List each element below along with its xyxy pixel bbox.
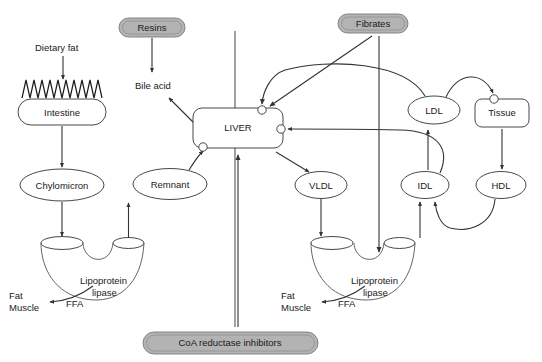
lpl-left-inner-wall bbox=[83, 243, 113, 259]
lpl-right-mouth-out bbox=[384, 238, 415, 249]
node-chylomicron-label: Chylomicron bbox=[36, 180, 89, 191]
node-tissue-label: Tissue bbox=[488, 107, 516, 118]
muscle-left-label: Muscle bbox=[9, 302, 39, 313]
edge-remnant-to-liver bbox=[189, 151, 203, 170]
fat-left-label: Fat bbox=[9, 290, 23, 301]
lpl-left-label-line2: lipase bbox=[92, 287, 117, 298]
drug-fibrates-label: Fibrates bbox=[356, 18, 391, 29]
pathway-diagram: Intestine Chylomicron Lipoprotein lipase… bbox=[0, 0, 542, 362]
edge-ldl-to-tissue bbox=[446, 77, 493, 97]
edge-fibrates-to-liver bbox=[270, 36, 372, 106]
node-ldl-label: LDL bbox=[425, 105, 442, 116]
node-hdl-label: HDL bbox=[491, 180, 510, 191]
drug-coa-reductase-inhibitors[interactable]: CoA reductase inhibitors bbox=[143, 332, 318, 354]
liver-receptor-bottom-left-icon[interactable] bbox=[199, 143, 207, 151]
node-vldl-label: VLDL bbox=[309, 180, 333, 191]
dietary-fat-label: Dietary fat bbox=[35, 42, 79, 53]
node-liver-label: LIVER bbox=[224, 122, 252, 133]
fat-right-label: Fat bbox=[281, 290, 295, 301]
bile-acid-label: Bile acid bbox=[135, 80, 171, 91]
edge-ldl-to-liver bbox=[262, 64, 425, 104]
muscle-right-label: Muscle bbox=[281, 302, 311, 313]
intestinal-villi bbox=[22, 80, 102, 98]
liver-receptor-right-icon[interactable] bbox=[277, 125, 285, 133]
edge-hdl-to-idl bbox=[435, 199, 495, 229]
drug-resins[interactable]: Resins bbox=[119, 18, 185, 37]
node-intestine-label: Intestine bbox=[44, 107, 80, 118]
liver-receptor-top-icon[interactable] bbox=[258, 106, 266, 114]
lpl-right-label-line2: lipase bbox=[363, 287, 388, 298]
drug-coa-label: CoA reductase inhibitors bbox=[179, 337, 282, 348]
ffa-left-label: FFA bbox=[66, 298, 84, 309]
node-idl-label: IDL bbox=[418, 180, 433, 191]
lpl-right-label-line1: Lipoprotein bbox=[351, 275, 398, 286]
drug-resins-label: Resins bbox=[137, 22, 166, 33]
lpl-left-label-line1: Lipoprotein bbox=[80, 275, 127, 286]
edge-liver-to-vldl bbox=[276, 152, 309, 172]
lpl-left-mouth-in bbox=[41, 237, 83, 250]
ffa-right-label: FFA bbox=[338, 298, 356, 309]
edge-idl-to-liver bbox=[288, 129, 444, 173]
tissue-receptor-top-icon[interactable] bbox=[490, 95, 498, 103]
node-remnant-label: Remnant bbox=[151, 179, 190, 190]
drug-fibrates[interactable]: Fibrates bbox=[338, 14, 408, 33]
lpl-left-mouth-out bbox=[113, 238, 144, 249]
lpl-right-mouth-in bbox=[311, 237, 353, 250]
